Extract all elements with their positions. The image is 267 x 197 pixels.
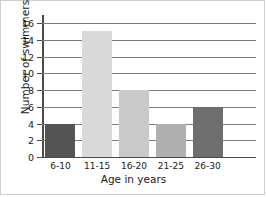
y-tick-label: 6 (28, 101, 34, 112)
bar-6-10 (45, 124, 75, 158)
y-tick-label: 12 (22, 51, 34, 62)
gridline-0 (42, 157, 256, 158)
plot-area: 0246810121416 6-1011-1516-2021-2526-30 (42, 23, 226, 157)
bar-chart-figure: Number of swimmers 0246810121416 6-1011-… (0, 0, 265, 195)
y-tick-label: 14 (22, 34, 34, 45)
bar-26-30 (193, 107, 223, 157)
y-tick-mark-8 (37, 90, 42, 91)
bar-21-25 (156, 124, 186, 158)
bar-16-20 (119, 90, 149, 157)
y-tick-mark-16 (37, 23, 42, 24)
y-tick-mark-6 (37, 107, 42, 108)
gridline-14 (42, 40, 256, 41)
gridline-6 (42, 107, 256, 108)
y-tick-mark-14 (37, 40, 42, 41)
x-axis-title: Age in years (1, 173, 266, 185)
gridline-16 (42, 23, 256, 24)
x-tick-label: 26-30 (185, 161, 231, 171)
y-axis-line (42, 15, 44, 158)
y-tick-mark-12 (37, 57, 42, 58)
y-tick-label: 8 (28, 85, 34, 96)
gridline-10 (42, 73, 256, 74)
y-tick-mark-2 (37, 140, 42, 141)
y-tick-label: 16 (22, 18, 34, 29)
y-tick-label: 10 (22, 68, 34, 79)
gridline-8 (42, 90, 256, 91)
y-tick-mark-0 (37, 157, 42, 158)
y-tick-label: 2 (28, 135, 34, 146)
y-tick-mark-10 (37, 73, 42, 74)
bar-11-15 (82, 31, 112, 157)
y-tick-label: 0 (28, 152, 34, 163)
y-tick-label: 4 (28, 118, 34, 129)
gridline-12 (42, 57, 256, 58)
y-tick-mark-4 (37, 124, 42, 125)
